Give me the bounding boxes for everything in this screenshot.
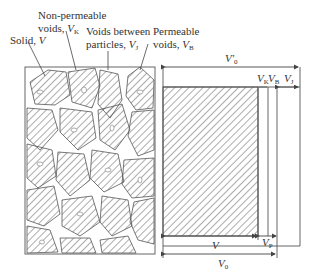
symbol: V	[268, 72, 275, 84]
label-vp: VP	[262, 236, 273, 252]
symbol: V	[257, 72, 264, 84]
symbol: V	[262, 236, 269, 248]
subscript: J	[291, 78, 294, 86]
label-text: Solid,	[10, 34, 39, 46]
label-text: voids,	[153, 38, 182, 50]
symbol: V'	[225, 52, 234, 64]
subscript: K	[74, 28, 79, 36]
subscript: P	[269, 242, 273, 250]
subscript: 0	[234, 58, 238, 66]
subscript: J	[136, 44, 139, 52]
label-v-solid: V	[212, 239, 219, 255]
symbol: V	[212, 239, 219, 251]
label-vb: VB	[268, 72, 279, 88]
symbol: V	[284, 72, 291, 84]
symbol: V	[218, 257, 225, 269]
symbol: V	[39, 34, 46, 46]
subscript: 0	[225, 263, 229, 271]
label-permeable: voids, VB	[153, 38, 194, 54]
label-text: particles,	[86, 38, 129, 50]
label-text: voids,	[38, 22, 67, 34]
volume-phase-diagram	[163, 67, 300, 258]
symbol: V	[129, 38, 136, 50]
particle-packing-figure	[25, 31, 155, 254]
subscript: B	[189, 44, 194, 52]
label-voids-between: particles, VJ	[86, 38, 138, 54]
label-total-volume-prime: V'0	[225, 52, 238, 68]
label-v0: V0	[218, 257, 228, 273]
label-permeable-line1: Permeable	[153, 25, 199, 37]
label-non-permeable-line1: Non-permeable	[38, 9, 106, 21]
label-solid: Solid, V	[10, 34, 45, 46]
label-voids-between-line1: Voids between	[86, 25, 150, 37]
label-vj: VJ	[284, 72, 293, 88]
subscript: B	[275, 78, 280, 86]
